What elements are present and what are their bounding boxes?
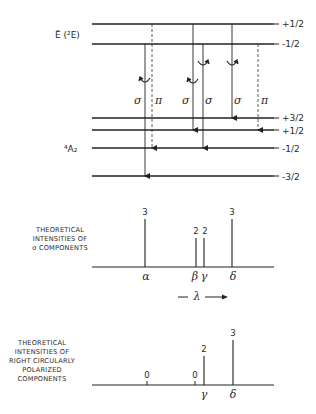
rcp-caption-line: THEORETICAL bbox=[17, 339, 66, 347]
sigma-label: σ bbox=[182, 94, 190, 107]
intensity-label: 2 bbox=[193, 226, 198, 236]
rcp-caption-line: POLARIZED bbox=[22, 366, 62, 374]
sigma-caption-line: THEORETICAL bbox=[35, 226, 84, 234]
line-label-alpha: α bbox=[142, 270, 150, 283]
sigma-spectrum: THEORETICAL INTENSITIES OF σ COMPONENTS … bbox=[32, 207, 274, 303]
upper-state-levels: +1/2 -1/2 Ē (²E) bbox=[55, 19, 304, 49]
rcp-spectrum: THEORETICAL INTENSITIES OF RIGHT CIRCULA… bbox=[9, 328, 274, 401]
wavelength-label: λ bbox=[193, 290, 201, 303]
intensity-label: 0 bbox=[192, 370, 197, 380]
level-label-plus-three-half: +3/2 bbox=[282, 113, 304, 123]
sigma-caption-line: σ COMPONENTS bbox=[32, 244, 88, 252]
sigma-label: σ bbox=[234, 94, 242, 107]
level-label-upper-plus-half: +1/2 bbox=[282, 19, 304, 29]
rcp-caption-line: COMPONENTS bbox=[18, 375, 67, 383]
level-label-minus-three-half: -3/2 bbox=[282, 172, 300, 182]
intensity-label: 3 bbox=[229, 207, 234, 217]
intensity-label: 2 bbox=[201, 344, 206, 354]
line-label-delta: δ bbox=[230, 270, 237, 283]
level-label-minus-half: -1/2 bbox=[282, 144, 300, 154]
line-label-beta: β bbox=[191, 270, 198, 283]
sigma-caption-line: INTENSITIES OF bbox=[33, 235, 87, 243]
line-label-delta: δ bbox=[230, 388, 237, 401]
zeeman-diagram: +1/2 -1/2 Ē (²E) +3/2 +1/2 -1/2 -3/2 ⁴A₂ bbox=[0, 0, 316, 414]
circular-arrow-icon bbox=[187, 78, 198, 83]
level-label-plus-half: +1/2 bbox=[282, 126, 304, 136]
rcp-caption-line: INTENSITIES OF bbox=[15, 348, 69, 356]
pi-label: π bbox=[154, 94, 163, 107]
rcp-caption-line: RIGHT CIRCULARLY bbox=[9, 357, 76, 365]
sigma-label: σ bbox=[205, 94, 213, 107]
upper-state-label: Ē (²E) bbox=[55, 30, 80, 40]
circular-arrow-icon bbox=[227, 60, 238, 65]
intensity-label: 3 bbox=[142, 207, 147, 217]
line-label-gamma: γ bbox=[201, 270, 208, 283]
arrow-right-icon bbox=[222, 295, 228, 300]
lower-state-levels: +3/2 +1/2 -1/2 -3/2 ⁴A₂ bbox=[64, 113, 304, 182]
intensity-label: 0 bbox=[144, 370, 149, 380]
transitions: σ π σ σ σ π bbox=[134, 24, 269, 176]
intensity-label: 3 bbox=[230, 328, 235, 338]
lower-state-label: ⁴A₂ bbox=[64, 144, 78, 154]
line-label-gamma: γ bbox=[201, 388, 208, 401]
pi-label: π bbox=[260, 94, 269, 107]
intensity-label: 2 bbox=[202, 226, 207, 236]
sigma-label: σ bbox=[134, 94, 142, 107]
circular-arrow-icon bbox=[139, 77, 150, 82]
circular-arrow-icon bbox=[198, 60, 209, 65]
level-label-upper-minus-half: -1/2 bbox=[282, 39, 300, 49]
